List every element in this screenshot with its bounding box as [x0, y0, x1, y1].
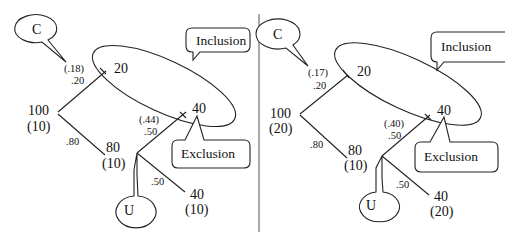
u-callout-label: U [124, 203, 134, 218]
lower-prob: .80 [66, 136, 79, 147]
chance-lower-node-value: 40 [434, 189, 448, 204]
exclusion-callout-label: Exclusion [424, 149, 478, 164]
u-callout-label: U [366, 198, 376, 213]
decision-tree-diagram: C Inclusion Exclusion U 100 (10) (.18) .… [0, 0, 518, 245]
upper-prob: .20 [313, 80, 326, 91]
upper-node-value: 20 [357, 64, 371, 79]
chance-lower-prob: .50 [396, 179, 409, 190]
root-value: 100 [270, 106, 291, 121]
chance-lower-node-count: (20) [430, 204, 454, 220]
upper-prob-observed: (.17) [308, 67, 329, 79]
inclusion-callout-label: Inclusion [196, 33, 246, 48]
exclusion-callout-label: Exclusion [181, 146, 235, 161]
lower-node-count: (10) [344, 158, 368, 174]
upper-prob-observed: (.18) [64, 63, 85, 75]
chance-lower-prob: .50 [151, 176, 164, 187]
chance-upper-prob: .50 [388, 130, 401, 141]
lower-prob: .80 [310, 139, 323, 150]
root-count: (10) [27, 119, 51, 135]
chance-lower-node-count: (10) [185, 202, 209, 218]
chance-upper-node-value: 40 [437, 103, 451, 118]
c-callout-label: C [273, 27, 282, 42]
root-count: (20) [269, 121, 293, 137]
c-callout-label: C [32, 22, 41, 37]
chance-upper-prob-observed: (.40) [384, 118, 405, 130]
lower-node-value: 80 [106, 140, 120, 155]
upper-prob: .20 [71, 75, 84, 86]
left-panel: C Inclusion Exclusion U 100 (10) (.18) .… [15, 15, 250, 228]
lower-node-count: (10) [102, 156, 126, 172]
upper-node-value: 20 [114, 61, 128, 76]
chance-lower-node-value: 40 [190, 187, 204, 202]
chance-upper-prob: .50 [144, 126, 157, 137]
chance-upper-prob-observed: (.44) [139, 114, 160, 126]
branch-root-to-lower [58, 114, 105, 155]
branch-root-to-lower [300, 115, 347, 158]
lower-node-value: 80 [348, 143, 362, 158]
root-value: 100 [28, 103, 49, 118]
right-panel: C Inclusion Exclusion U 100 (20) (.17) .… [256, 19, 505, 222]
inclusion-callout-label: Inclusion [441, 39, 491, 54]
chance-upper-node-value: 40 [192, 101, 206, 116]
